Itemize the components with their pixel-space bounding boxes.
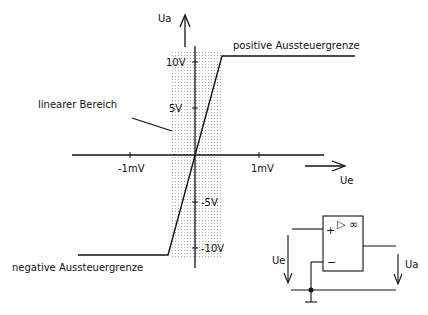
y-axis-arrow-icon: [180, 15, 190, 47]
y-tick-minus-5v: -5V: [201, 197, 218, 208]
positive-limit-label: positive Aussteuergrenze: [233, 40, 360, 51]
x-axis-arrow-icon: [305, 161, 345, 171]
opamp-minus-sign: −: [327, 256, 336, 269]
linear-region-label: linearer Bereich: [38, 99, 117, 110]
y-axis-label: Ua: [158, 13, 171, 24]
transfer-characteristic-diagram: Ua Ue 10V 5V -5V -10V -1mV 1mV positive …: [0, 0, 428, 315]
x-tick-1mv: 1mV: [251, 163, 274, 174]
x-axis-label: Ue: [340, 175, 353, 186]
circuit-input-label: Ue: [272, 255, 285, 266]
y-tick-5v: 5V: [169, 103, 182, 114]
circuit-output-label: Ua: [405, 259, 418, 270]
y-tick-minus-10v: -10V: [201, 243, 224, 254]
opamp-plus-sign: +: [326, 224, 335, 237]
opamp-symbol: ▷ ∞: [337, 218, 358, 231]
x-tick-minus-1mv: -1mV: [118, 163, 145, 174]
linear-region-pointer: [132, 118, 172, 131]
y-tick-10v: 10V: [166, 57, 186, 68]
ground-junction-dot: [309, 288, 314, 293]
negative-limit-label: negative Aussteuergrenze: [12, 262, 143, 273]
